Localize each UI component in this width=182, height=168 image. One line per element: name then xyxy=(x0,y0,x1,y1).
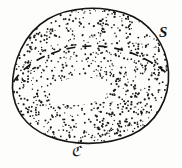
surface-label: S xyxy=(159,25,167,40)
stipple-fill xyxy=(9,4,172,148)
boundary-curve-label: ℭ xyxy=(71,145,81,159)
figure-drawing xyxy=(0,0,182,168)
dashed-curve xyxy=(14,46,168,82)
figure-canvas: S ℭ xyxy=(0,0,182,168)
surface-outline xyxy=(12,8,168,143)
